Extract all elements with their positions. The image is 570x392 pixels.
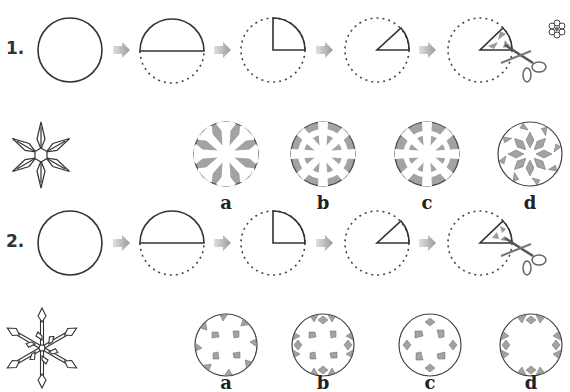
arrow-icon <box>419 42 436 58</box>
problem-1-number: 1. <box>6 38 24 58</box>
cut-fold-icon <box>448 18 512 82</box>
snowflake-1-icon <box>10 122 71 188</box>
cut-fold-icon <box>448 211 512 275</box>
half-fold-icon <box>140 19 204 83</box>
option-1c-pattern <box>395 122 459 186</box>
option-2c-pattern <box>399 314 461 376</box>
problem-2-number: 2. <box>6 231 24 251</box>
option-1b-pattern <box>291 122 355 186</box>
problem-1-steps <box>38 18 546 83</box>
problem-2-steps <box>38 211 546 275</box>
option-2a-label[interactable]: a <box>211 372 241 392</box>
full-circle-icon <box>38 211 102 275</box>
arrow-icon <box>419 235 436 251</box>
option-2b-pattern <box>292 314 354 376</box>
quarter-fold-icon <box>241 18 305 82</box>
arrow-icon <box>214 235 231 251</box>
option-1a-pattern <box>193 121 259 187</box>
option-2b-label[interactable]: b <box>308 372 338 392</box>
option-2c-label[interactable]: c <box>415 372 445 392</box>
arrow-icon <box>316 42 333 58</box>
snowflake-2-icon <box>4 308 79 388</box>
arrow-icon <box>113 42 130 58</box>
option-2a-pattern <box>195 314 257 376</box>
half-fold-icon <box>140 211 204 275</box>
option-1c-label[interactable]: c <box>412 192 442 213</box>
quarter-fold-icon <box>241 211 305 275</box>
arrow-icon <box>113 235 130 251</box>
sixth-fold-icon <box>345 211 409 275</box>
arrow-icon <box>214 42 231 58</box>
option-2d-label[interactable]: d <box>516 372 546 392</box>
option-2d-pattern <box>500 314 562 376</box>
option-1d-label[interactable]: d <box>515 192 545 213</box>
sixth-fold-icon <box>345 18 409 82</box>
arrow-icon <box>316 235 333 251</box>
option-1a-label[interactable]: a <box>211 192 241 213</box>
flower-icon <box>549 20 565 38</box>
option-1d-pattern <box>498 122 562 186</box>
option-1b-label[interactable]: b <box>308 192 338 213</box>
full-circle-icon <box>38 18 102 82</box>
diagram-canvas <box>0 0 570 392</box>
